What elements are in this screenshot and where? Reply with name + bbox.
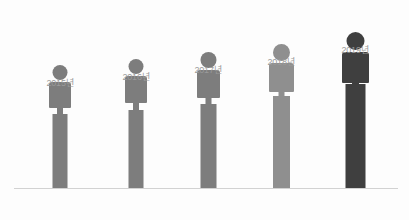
year-label-2016: 2016년 [122, 73, 149, 82]
year-label-2018: 2018년 [267, 58, 294, 67]
bar-group-2016[interactable]: 854,215명 2016년 [124, 59, 148, 188]
figure-torso-icon [342, 52, 369, 83]
bar-column-2017 [200, 104, 216, 188]
bar-column-2019 [345, 84, 365, 188]
year-label-2019: 2019년 [341, 46, 368, 55]
axis-baseline [14, 188, 398, 189]
bar-group-2018[interactable]: 972,196명 2018년 [268, 44, 295, 188]
year-label-2015: 2015년 [46, 79, 73, 88]
pictogram-2019 [341, 32, 370, 188]
bar-group-2017[interactable]: 906,631명 2017년 [196, 52, 221, 188]
bar-group-2019[interactable]: 1,079,548명 2019년 [341, 32, 370, 188]
bar-column-2015 [53, 114, 68, 188]
bar-column-2018 [273, 96, 290, 188]
year-label-2017: 2017년 [194, 66, 221, 75]
bar-column-2016 [129, 110, 144, 188]
figure-torso-icon [269, 63, 294, 92]
bar-group-2015[interactable]: 821,754명 2015년 [48, 65, 72, 188]
pictogram-bar-chart: 821,754명 2015년 854,215명 2016년 906,631명 2… [0, 0, 409, 220]
